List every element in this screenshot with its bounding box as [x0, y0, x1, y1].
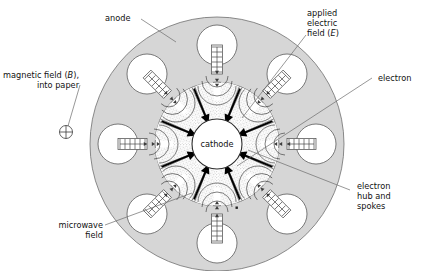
cathode: cathode [192, 119, 242, 169]
microwave-line1: microwave [58, 220, 103, 230]
svg-text:field (E): field (E) [307, 28, 339, 38]
applied-field-line3b: ) [336, 28, 339, 38]
hub-line3: spokes [357, 201, 385, 211]
applied-field-line2: electric [307, 18, 337, 28]
magnetron-diagram: cathode anode magnetic field (B), into p… [0, 0, 424, 271]
label-applied-electric-field: applied electric field (E) [307, 8, 339, 38]
magnetic-field-text: magnetic field ( [3, 70, 67, 80]
applied-field-line3a: field ( [307, 28, 330, 38]
label-anode: anode [105, 13, 130, 23]
label-microwave-field: microwave field [58, 220, 103, 240]
svg-text:magnetic field (B),: magnetic field (B), [3, 70, 79, 80]
leader-magnetic-field [68, 85, 80, 126]
microwave-line2: field [85, 230, 103, 240]
hub-line2: hub and [357, 191, 391, 201]
applied-field-line1: applied [307, 8, 337, 18]
magnetic-field-line2: into paper [37, 80, 80, 90]
hub-line1: electron [357, 181, 390, 191]
cathode-label: cathode [200, 139, 233, 149]
label-electron-hub-and-spokes: electron hub and spokes [357, 181, 391, 211]
label-magnetic-field: magnetic field (B), into paper [3, 70, 80, 90]
electron-dot-icon [236, 207, 238, 209]
circle-plus-into-page-icon [60, 126, 73, 139]
label-electron: electron [378, 73, 411, 83]
magnetic-field-text-end: ), [73, 70, 79, 80]
